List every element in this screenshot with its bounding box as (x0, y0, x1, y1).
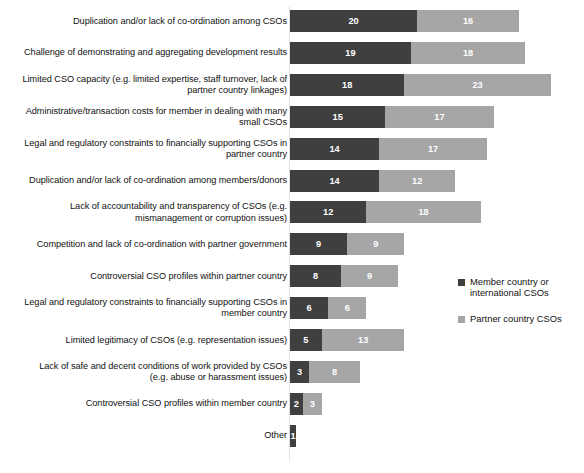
bar-row: Duplication and/or lack of co-ordination… (0, 165, 584, 197)
category-label: Other (19, 430, 287, 441)
category-label: Controversial CSO profiles within partne… (19, 271, 287, 282)
bar-segment: 9 (341, 265, 398, 287)
bar-segment: 5 (290, 329, 322, 351)
square-marker-icon (458, 279, 465, 286)
bar-segment: 8 (290, 265, 341, 287)
legend-label: Partner country CSOs (470, 313, 562, 324)
stacked-bar: 513 (290, 329, 404, 351)
bar-value-label: 14 (329, 176, 339, 186)
bar-row: Controversial CSO profiles within member… (0, 388, 584, 420)
bar-value-label: 6 (345, 303, 350, 313)
category-label: Limited CSO capacity (e.g. limited exper… (19, 74, 287, 96)
bar-segment: 6 (290, 297, 328, 319)
bar-value-label: 2 (294, 399, 299, 409)
bar-segment: 16 (417, 10, 519, 32)
stacked-bar: 23 (290, 393, 322, 415)
bar-segment: 3 (290, 361, 309, 383)
chart-legend: Member country or international CSOs Par… (458, 276, 584, 338)
bar-row: Limited CSO capacity (e.g. limited exper… (0, 69, 584, 101)
bar-value-label: 8 (332, 367, 337, 377)
category-label: Legal and regulatory constraints to fina… (19, 138, 287, 160)
bar-row: Other1 (0, 420, 584, 452)
bar-segment: 3 (303, 393, 322, 415)
category-label: Challenge of demonstrating and aggregati… (19, 47, 287, 58)
bar-value-label: 9 (373, 239, 378, 249)
bar-value-label: 3 (310, 399, 315, 409)
bar-segment: 18 (366, 201, 480, 223)
bar-value-label: 14 (329, 144, 339, 154)
bar-segment: 12 (290, 201, 366, 223)
bar-segment: 1 (290, 425, 296, 447)
stacked-bar: 1823 (290, 74, 551, 96)
category-label: Legal and regulatory constraints to fina… (19, 297, 287, 319)
category-label: Controversial CSO profiles within member… (19, 398, 287, 409)
category-label: Lack of accountability and transparency … (19, 201, 287, 223)
stacked-bar: 1918 (290, 42, 525, 64)
bar-value-label: 9 (367, 271, 372, 281)
bar-value-label: 3 (297, 367, 302, 377)
bar-segment: 19 (290, 42, 411, 64)
bar-value-label: 19 (345, 48, 355, 58)
bar-segment: 15 (290, 106, 385, 128)
category-label: Duplication and/or lack of co-ordination… (19, 16, 287, 27)
stacked-bar: 1412 (290, 170, 455, 192)
bar-value-label: 5 (303, 335, 308, 345)
bar-row: Administrative/transaction costs for mem… (0, 101, 584, 133)
bar-segment: 12 (379, 170, 455, 192)
bar-segment: 9 (290, 233, 347, 255)
bar-segment: 2 (290, 393, 303, 415)
bar-segment: 14 (290, 170, 379, 192)
bar-value-label: 17 (428, 144, 438, 154)
bar-row: Competition and lack of co-ordination wi… (0, 228, 584, 260)
bar-segment: 18 (411, 42, 525, 64)
stacked-bar: 1417 (290, 138, 487, 160)
bar-segment: 13 (322, 329, 405, 351)
bar-value-label: 17 (434, 112, 444, 122)
plot-area: Duplication and/or lack of co-ordination… (0, 0, 584, 473)
bar-segment: 18 (290, 74, 404, 96)
bar-value-label: 13 (358, 335, 368, 345)
bar-segment: 20 (290, 10, 417, 32)
bar-value-label: 18 (463, 48, 473, 58)
bar-row: Lack of accountability and transparency … (0, 196, 584, 228)
category-label: Competition and lack of co-ordination wi… (19, 239, 287, 250)
legend-item-partner-country: Partner country CSOs (458, 313, 584, 324)
bar-value-label: 18 (418, 207, 428, 217)
bar-segment: 6 (328, 297, 366, 319)
bar-value-label: 8 (313, 271, 318, 281)
bar-value-label: 9 (316, 239, 321, 249)
bar-row: Challenge of demonstrating and aggregati… (0, 37, 584, 69)
category-label: Limited legitimacy of CSOs (e.g. represe… (19, 335, 287, 346)
stacked-bar: 1 (290, 425, 296, 447)
bar-value-label: 16 (463, 16, 473, 26)
stacked-bar: 38 (290, 361, 360, 383)
stacked-bar: 99 (290, 233, 404, 255)
bar-value-label: 20 (348, 16, 358, 26)
bar-segment: 14 (290, 138, 379, 160)
bar-segment: 9 (347, 233, 404, 255)
bar-value-label: 12 (323, 207, 333, 217)
bar-value-label: 6 (307, 303, 312, 313)
bar-segment: 8 (309, 361, 360, 383)
bar-segment: 23 (404, 74, 550, 96)
stacked-bar: 1517 (290, 106, 494, 128)
square-marker-icon (458, 316, 465, 323)
bar-value-label: 18 (342, 80, 352, 90)
bar-value-label: 15 (333, 112, 343, 122)
bar-value-label: 12 (412, 176, 422, 186)
stacked-bar: 89 (290, 265, 398, 287)
bar-row: Lack of safe and decent conditions of wo… (0, 356, 584, 388)
bar-value-label: 23 (472, 80, 482, 90)
bar-segment: 17 (379, 138, 487, 160)
bar-segment: 17 (385, 106, 493, 128)
category-label: Duplication and/or lack of co-ordination… (19, 175, 287, 186)
stacked-bar: 66 (290, 297, 366, 319)
stacked-bar: 1218 (290, 201, 481, 223)
category-label: Administrative/transaction costs for mem… (19, 106, 287, 128)
bar-value-label: 1 (291, 431, 296, 441)
bar-row: Legal and regulatory constraints to fina… (0, 133, 584, 165)
stacked-bar-chart: Duplication and/or lack of co-ordination… (0, 0, 584, 473)
stacked-bar: 2016 (290, 10, 519, 32)
legend-label: Member country or international CSOs (470, 276, 584, 299)
bar-row: Duplication and/or lack of co-ordination… (0, 5, 584, 37)
